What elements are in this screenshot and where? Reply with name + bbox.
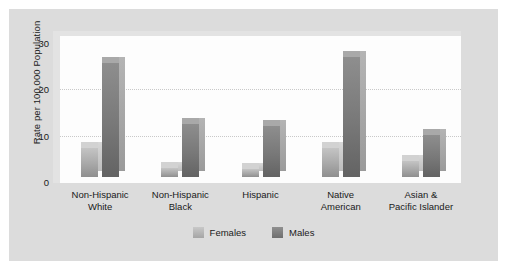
bar-males-4 (423, 135, 440, 177)
y-axis-tick-10: 10 (27, 132, 49, 142)
x-axis-category-labels: Non-HispanicWhiteNon-HispanicBlackHispan… (53, 189, 468, 223)
bar-front-face (423, 135, 440, 177)
bar-females-3 (322, 148, 339, 177)
bar-front-face (102, 63, 119, 177)
bar-side-face (199, 118, 205, 171)
bar-front-face (81, 148, 98, 177)
bar-males-0 (102, 63, 119, 177)
y-axis-tick-20: 20 (27, 85, 49, 95)
bar-side-face (440, 129, 446, 171)
bar-side-face (119, 57, 125, 171)
bar-side-face (360, 51, 366, 171)
bar-front-face (343, 57, 360, 177)
legend-swatch-females-icon (193, 227, 204, 238)
x-axis-label-line: Pacific Islander (373, 201, 469, 213)
plot-area (53, 31, 461, 183)
chart-legend: Females Males (9, 227, 498, 238)
bar-males-3 (343, 57, 360, 177)
bar-females-1 (161, 168, 178, 177)
bar-front-face (322, 148, 339, 177)
bar-males-1 (182, 124, 199, 177)
legend-label-females: Females (210, 227, 246, 238)
bar-front-face (182, 124, 199, 177)
bar-females-4 (402, 161, 419, 177)
plot-canvas (60, 36, 461, 183)
bar-front-face (242, 169, 259, 177)
y-axis-tick-30: 30 (27, 39, 49, 49)
legend-item-males[interactable]: Males (272, 227, 314, 238)
y-axis-tick-labels: 3020100 (21, 9, 49, 261)
bar-females-2 (242, 169, 259, 177)
y-axis-tick-0: 0 (27, 178, 49, 188)
bar-front-face (402, 161, 419, 177)
bar-females-0 (81, 148, 98, 177)
x-axis-label-line: Black (132, 201, 228, 213)
legend-label-males: Males (289, 227, 314, 238)
chart-figure: Rate per 100,000 Population 3020100 Non-… (9, 9, 498, 261)
bar-front-face (161, 168, 178, 177)
x-axis-label-line: Asian & (373, 189, 469, 201)
bar-males-2 (263, 126, 280, 177)
bar-side-face (280, 120, 286, 171)
legend-swatch-males-icon (272, 227, 283, 238)
legend-item-females[interactable]: Females (193, 227, 246, 238)
bar-front-face (263, 126, 280, 177)
x-axis-label-4: Asian &Pacific Islander (373, 189, 469, 213)
